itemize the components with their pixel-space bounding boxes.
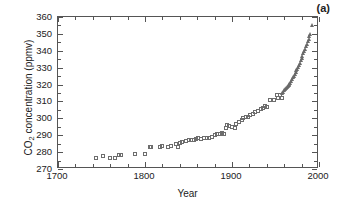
y-axis-title-units: concentration (ppmv)	[23, 40, 34, 137]
co2-concentration-figure: (a) 270280290300310320330340350360 17001…	[0, 0, 338, 209]
x-axis-tick-label: 1800	[133, 170, 154, 181]
x-axis-tick-label: 2000	[307, 170, 328, 181]
x-axis-tick-label: 1900	[220, 170, 241, 181]
y-axis-title: CO2 concentration (ppmv)	[23, 18, 34, 178]
y-axis-title-subscript: 2	[27, 136, 36, 140]
x-axis-title: Year	[57, 188, 318, 199]
y-axis-title-text: CO	[23, 140, 34, 155]
x-axis-tick-label: 1700	[46, 170, 67, 181]
